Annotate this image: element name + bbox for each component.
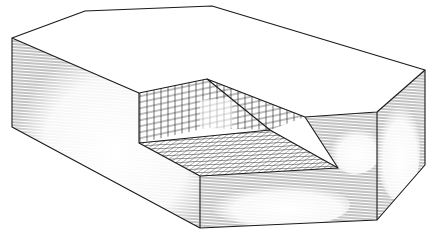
block-diagram [0,0,433,239]
front-face [200,166,377,228]
